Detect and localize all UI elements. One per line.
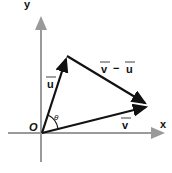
svg-text:u: u [126,63,133,75]
origin-label: O [29,121,38,133]
label-u: u [46,77,56,90]
label-v-text: v [122,119,129,131]
y-axis-label: y [24,0,31,10]
label-v: v [121,118,131,131]
x-axis-label: x [160,118,167,130]
svg-text:v: v [101,63,108,75]
label-u-text: u [47,78,54,90]
vector-diagram: y x O θ u v v − u [0,0,172,173]
svg-text:−: − [113,62,119,74]
theta-label: θ [54,113,59,122]
label-v-minus-u: v − u [100,62,135,75]
axes [8,18,163,162]
